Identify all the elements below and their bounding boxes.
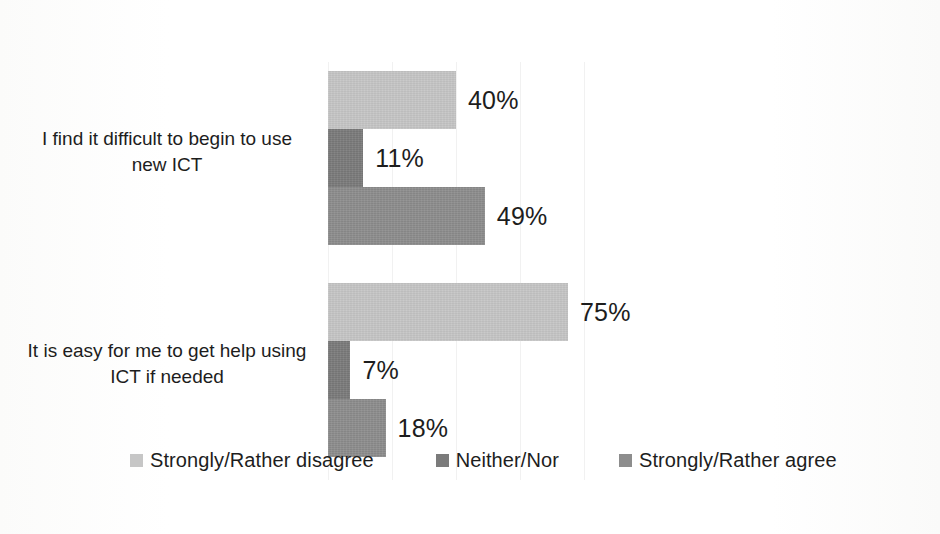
bar-value-label: 75% <box>580 298 631 327</box>
bar-value-label: 49% <box>497 202 548 231</box>
bar-disagree-0[interactable] <box>328 71 456 129</box>
gridline-60 <box>520 62 521 480</box>
chart-legend: Strongly/Rather disagree Neither/Nor Str… <box>130 449 837 472</box>
bar-value-label: 18% <box>398 414 449 443</box>
bar-value-label: 40% <box>468 86 519 115</box>
bar-value-label: 7% <box>362 356 399 385</box>
bar-agree-0[interactable] <box>328 187 485 245</box>
bar-neither-0[interactable] <box>328 129 363 187</box>
legend-item-agree[interactable]: Strongly/Rather agree <box>619 449 837 472</box>
legend-label: Strongly/Rather disagree <box>150 449 374 472</box>
bar-disagree-1[interactable] <box>328 283 568 341</box>
legend-label: Neither/Nor <box>456 449 559 472</box>
category-label-0: I find it difficult to begin to use new … <box>22 126 312 177</box>
gridline-80 <box>584 62 585 480</box>
plot-area: 40% 11% 49% 75% 7% 18% <box>328 40 848 460</box>
legend-swatch-icon <box>619 454 632 467</box>
legend-swatch-icon <box>436 454 449 467</box>
bar-value-label: 11% <box>375 144 424 173</box>
legend-item-neither[interactable]: Neither/Nor <box>436 449 559 472</box>
gridline-40 <box>456 62 457 480</box>
category-label-1: It is easy for me to get help using ICT … <box>22 338 312 389</box>
legend-item-disagree[interactable]: Strongly/Rather disagree <box>130 449 374 472</box>
legend-label: Strongly/Rather agree <box>639 449 837 472</box>
bar-neither-1[interactable] <box>328 341 350 399</box>
legend-swatch-icon <box>130 454 143 467</box>
bar-chart-figure: I find it difficult to begin to use new … <box>0 0 940 534</box>
